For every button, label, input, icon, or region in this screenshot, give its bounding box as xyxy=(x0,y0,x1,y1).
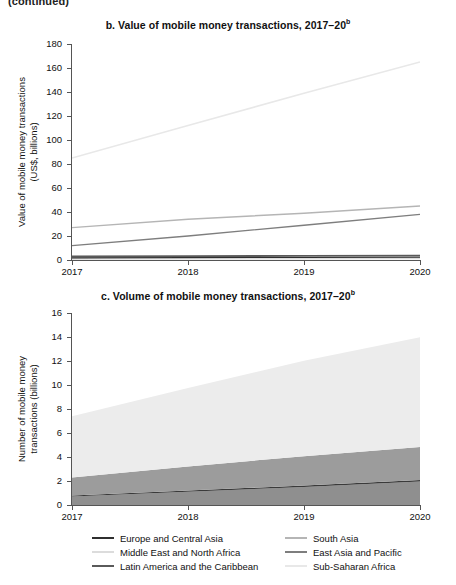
panel-c-title: c. Volume of mobile money transactions, … xyxy=(0,289,456,302)
legend-swatch-icon xyxy=(285,537,307,540)
series-line xyxy=(72,256,420,257)
legend-item[interactable]: Sub-Saharan Africa xyxy=(285,559,402,573)
wrap-c-y-tick xyxy=(67,481,71,482)
wrap-c-y-tick xyxy=(67,505,71,506)
wrap-b-y-tick-label: 180 xyxy=(36,39,62,49)
wrap-c-x-tick-label: 2017 xyxy=(52,512,92,522)
chart-legend: Europe and Central AsiaMiddle East and N… xyxy=(0,531,456,577)
wrap-b-y-tick-label: 120 xyxy=(36,111,62,121)
wrap-b-y-tick xyxy=(67,260,71,261)
wrap-b-x-tick xyxy=(188,261,189,265)
legend-item-label: South Asia xyxy=(313,533,358,544)
wrap-c-y-tick xyxy=(67,313,71,314)
wrap-b-y-tick-label: 40 xyxy=(36,207,62,217)
panel-b-title-superscript: b xyxy=(346,18,350,25)
wrap-c-y-tick-label: 16 xyxy=(36,308,62,318)
legend-swatch-icon xyxy=(285,565,307,568)
wrap-c-y-tick-label: 4 xyxy=(36,452,62,462)
legend-swatch-icon xyxy=(92,565,114,568)
wrap-b-x-tick xyxy=(304,261,305,265)
wrap-c-y-tick-label: 14 xyxy=(36,332,62,342)
panel-b-ylabel: Value of mobile money transactions (US$,… xyxy=(16,44,40,260)
continued-note: (continued) xyxy=(8,0,69,7)
wrap-c-x-tick-label: 2018 xyxy=(168,512,208,522)
wrap-b-y-tick-label: 80 xyxy=(36,159,62,169)
wrap-c-x-tick-label: 2019 xyxy=(284,512,324,522)
wrap-b-x-axis-line xyxy=(71,260,421,261)
panel-c-title-superscript: b xyxy=(351,289,355,296)
wrap-b-y-axis-line xyxy=(71,44,72,261)
legend-item-label: East Asia and Pacific xyxy=(313,547,402,558)
wrap-b-y-tick-label: 20 xyxy=(36,231,62,241)
wrap-c-y-tick xyxy=(67,361,71,362)
wrap-c-x-tick xyxy=(188,506,189,510)
wrap-b-x-tick-label: 2020 xyxy=(400,267,440,277)
wrap-b-y-tick xyxy=(67,164,71,165)
wrap-c-y-tick xyxy=(67,433,71,434)
wrap-b-x-tick xyxy=(72,261,73,265)
panel-b-lines xyxy=(72,44,420,260)
series-line xyxy=(72,62,420,158)
wrap-c-y-tick xyxy=(67,337,71,338)
wrap-c-y-tick-label: 10 xyxy=(36,380,62,390)
wrap-b-x-tick-label: 2017 xyxy=(52,267,92,277)
figure-page: (continued) b. Value of mobile money tra… xyxy=(0,0,456,585)
wrap-c-y-tick-label: 0 xyxy=(36,500,62,510)
wrap-c-x-axis-line xyxy=(71,505,421,506)
wrap-b-y-tick xyxy=(67,116,71,117)
legend-column-left: Europe and Central AsiaMiddle East and N… xyxy=(92,531,258,573)
wrap-c-y-axis-line xyxy=(71,313,72,506)
panel-c-areas xyxy=(72,313,420,505)
panel-b-title-text: b. Value of mobile money transactions, 2… xyxy=(106,19,346,31)
wrap-c-y-tick-label: 8 xyxy=(36,404,62,414)
wrap-b-y-tick xyxy=(67,236,71,237)
wrap-c-y-tick xyxy=(67,385,71,386)
legend-item[interactable]: Latin America and the Caribbean xyxy=(92,559,258,573)
wrap-b-x-tick-label: 2019 xyxy=(284,267,324,277)
panel-b-plot-area: Value of mobile money transactions (US$,… xyxy=(0,36,456,276)
series-line xyxy=(72,214,420,245)
wrap-b-y-tick xyxy=(67,140,71,141)
wrap-b-y-tick-label: 0 xyxy=(36,255,62,265)
legend-column-right: South AsiaEast Asia and PacificSub-Sahar… xyxy=(285,531,402,573)
wrap-b-y-tick xyxy=(67,92,71,93)
wrap-b-y-tick xyxy=(67,188,71,189)
legend-item-label: Latin America and the Caribbean xyxy=(120,561,258,572)
wrap-b-y-tick xyxy=(67,68,71,69)
wrap-b-y-tick xyxy=(67,44,71,45)
legend-item-label: Sub-Saharan Africa xyxy=(313,561,395,572)
panel-c-title-text: c. Volume of mobile money transactions, … xyxy=(101,290,351,302)
legend-item[interactable]: Middle East and North Africa xyxy=(92,545,258,559)
series-line xyxy=(72,206,420,228)
wrap-c-y-tick xyxy=(67,409,71,410)
wrap-c-y-tick xyxy=(67,457,71,458)
wrap-c-x-tick xyxy=(72,506,73,510)
wrap-b-x-tick-label: 2018 xyxy=(168,267,208,277)
legend-swatch-icon xyxy=(285,551,307,554)
wrap-c-y-tick-label: 6 xyxy=(36,428,62,438)
wrap-c-x-tick-label: 2020 xyxy=(400,512,440,522)
wrap-c-y-tick-label: 2 xyxy=(36,476,62,486)
legend-item-label: Middle East and North Africa xyxy=(120,547,240,558)
panel-b-title: b. Value of mobile money transactions, 2… xyxy=(0,18,456,31)
wrap-c-x-tick xyxy=(304,506,305,510)
panel-b-canvas xyxy=(72,44,420,260)
wrap-b-y-tick-label: 140 xyxy=(36,87,62,97)
wrap-c-x-tick xyxy=(420,506,421,510)
wrap-b-y-tick xyxy=(67,212,71,213)
wrap-b-y-tick-label: 160 xyxy=(36,63,62,73)
legend-item[interactable]: East Asia and Pacific xyxy=(285,545,402,559)
legend-swatch-icon xyxy=(92,551,114,554)
legend-item[interactable]: Europe and Central Asia xyxy=(92,531,258,545)
wrap-b-y-tick-label: 100 xyxy=(36,135,62,145)
wrap-b-y-tick-label: 60 xyxy=(36,183,62,193)
legend-item-label: Europe and Central Asia xyxy=(120,533,223,544)
legend-swatch-icon xyxy=(92,537,114,540)
panel-c-plot-area: Number of mobile money transactions (bil… xyxy=(0,305,456,520)
panel-c-canvas xyxy=(72,313,420,505)
wrap-c-y-tick-label: 12 xyxy=(36,356,62,366)
legend-item[interactable]: South Asia xyxy=(285,531,402,545)
wrap-b-x-tick xyxy=(420,261,421,265)
